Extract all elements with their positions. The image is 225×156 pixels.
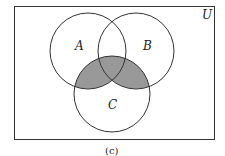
figure-caption: (c) — [105, 145, 119, 156]
set-a-label: A — [74, 39, 84, 53]
set-b-label: B — [142, 39, 152, 53]
universe-label: U — [202, 8, 213, 22]
set-c-label: C — [108, 98, 117, 112]
venn-diagram: A B C U (c) — [0, 0, 225, 156]
